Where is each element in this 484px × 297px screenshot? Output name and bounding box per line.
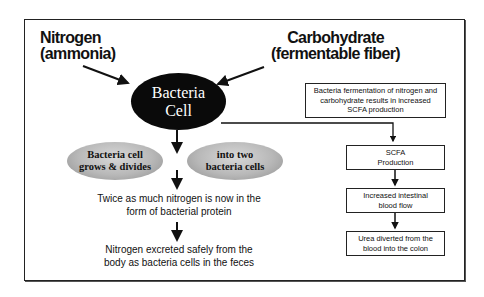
- bacteria-cell-line2: Cell: [165, 102, 192, 120]
- box-scfa-production-line1: SCFA: [386, 148, 406, 158]
- box-blood-flow-line1: Increased intestinal: [363, 191, 428, 201]
- oval-two-cells-line2: bacteria cells: [206, 161, 265, 173]
- box-urea-diverted-line1: Urea diverted from the: [358, 234, 433, 244]
- box-blood-flow: Increased intestinal blood flow: [346, 188, 445, 213]
- bacteria-cell-line1: Bacteria: [152, 84, 205, 102]
- oval-grows-divides-line2: grows & divides: [79, 161, 151, 173]
- step-nitrogen-excreted: Nitrogen excreted safely from the body a…: [84, 244, 274, 269]
- box-blood-flow-line2: blood flow: [379, 201, 413, 211]
- input-carbohydrate: Carbohydrate (fermentable fiber): [271, 30, 400, 62]
- step-nitrogen-excreted-line1: Nitrogen excreted safely from the: [84, 244, 274, 257]
- input-carbohydrate-line1: Carbohydrate: [271, 30, 400, 46]
- input-nitrogen-line1: Nitrogen: [40, 30, 116, 46]
- box-fermentation-summary-line2: carbohydrate results in increased: [320, 96, 430, 106]
- box-urea-diverted: Urea diverted from the blood into the co…: [346, 231, 445, 256]
- input-carbohydrate-line2: (fermentable fiber): [271, 46, 400, 62]
- oval-grows-divides-line1: Bacteria cell: [87, 149, 143, 161]
- box-fermentation-summary: Bacteria fermentation of nitrogen and ca…: [305, 83, 446, 118]
- box-scfa-production-line2: Production: [378, 158, 414, 168]
- step-nitrogen-protein: Twice as much nitrogen is now in the for…: [84, 193, 274, 218]
- oval-two-cells: into two bacteria cells: [187, 142, 283, 180]
- step-nitrogen-protein-line2: form of bacterial protein: [84, 206, 274, 219]
- oval-two-cells-line1: into two: [217, 149, 253, 161]
- input-nitrogen: Nitrogen (ammonia): [40, 30, 116, 62]
- input-nitrogen-line2: (ammonia): [40, 46, 116, 62]
- arrow-carbohydrate-to-cell: [218, 67, 264, 84]
- box-scfa-production: SCFA Production: [346, 145, 445, 170]
- box-fermentation-summary-line1: Bacteria fermentation of nitrogen and: [314, 86, 437, 96]
- arrow-nitrogen-to-cell: [83, 66, 128, 83]
- box-fermentation-summary-line3: SCFA production: [347, 105, 403, 115]
- oval-grows-divides: Bacteria cell grows & divides: [67, 142, 163, 180]
- box-urea-diverted-line2: blood into the colon: [363, 244, 428, 254]
- connector-cell-to-scfa: [221, 123, 393, 141]
- step-nitrogen-protein-line1: Twice as much nitrogen is now in the: [84, 193, 274, 206]
- step-nitrogen-excreted-line2: body as bacteria cells in the feces: [84, 257, 274, 270]
- bacteria-cell-node: Bacteria Cell: [131, 73, 226, 130]
